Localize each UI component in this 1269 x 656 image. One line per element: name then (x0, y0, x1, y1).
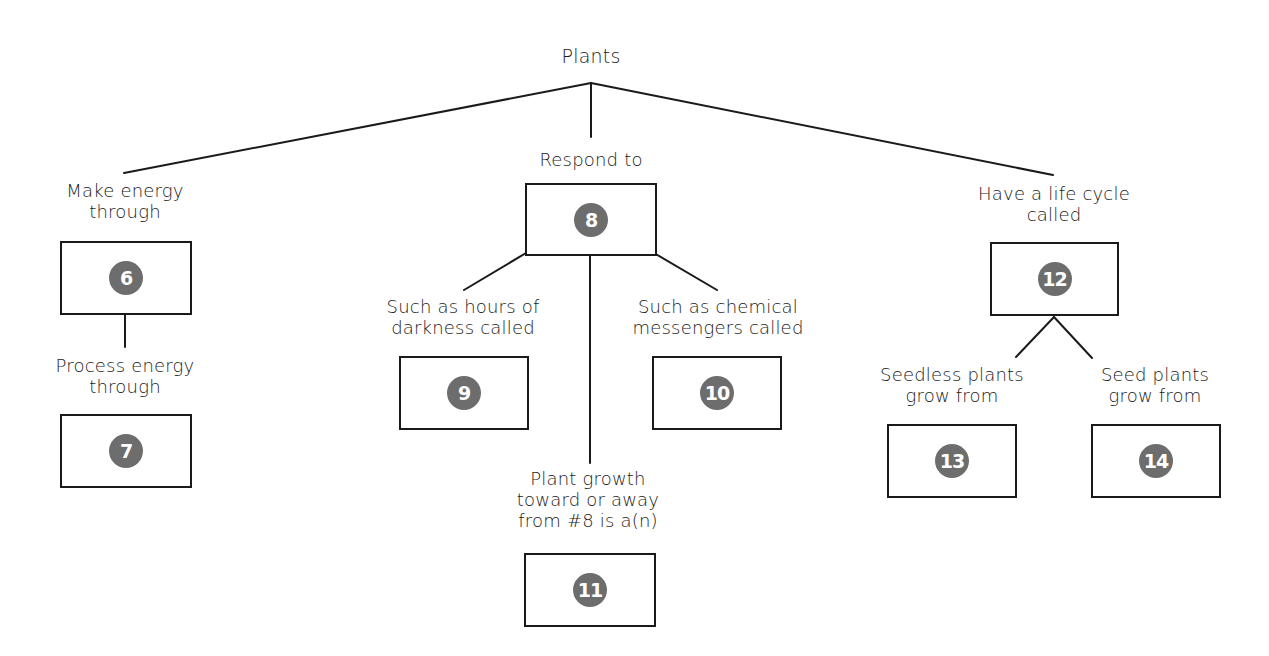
number-badge-9: 9 (447, 376, 481, 410)
answer-box-7[interactable]: 7 (60, 414, 192, 488)
number-badge-10: 10 (700, 376, 734, 410)
answer-box-14[interactable]: 14 (1091, 424, 1221, 498)
number-badge-6: 6 (109, 261, 143, 295)
answer-box-9[interactable]: 9 (399, 356, 529, 430)
connector-plants-left (124, 83, 591, 173)
answer-box-12[interactable]: 12 (990, 242, 1119, 316)
answer-box-6[interactable]: 6 (60, 241, 192, 315)
number-badge-8: 8 (574, 203, 608, 237)
label-chemical-messengers: Such as chemical messengers called (632, 296, 803, 338)
label-process-energy: Process energy through (56, 355, 195, 397)
answer-box-10[interactable]: 10 (652, 356, 782, 430)
connector-12-to-13 (1016, 317, 1054, 357)
answer-box-11[interactable]: 11 (524, 553, 656, 627)
label-seedless-plants: Seedless plants grow from (880, 364, 1024, 406)
label-respond-to: Respond to (539, 149, 642, 170)
label-life-cycle: Have a life cycle called (978, 183, 1130, 225)
connector-plants-right (591, 83, 1053, 175)
number-badge-14: 14 (1139, 444, 1173, 478)
number-badge-12: 12 (1038, 262, 1072, 296)
connector-8-to-9 (464, 253, 526, 290)
connector-12-to-14 (1054, 317, 1092, 358)
concept-map: Plants Make energy through 6 Process ene… (0, 0, 1269, 656)
answer-box-13[interactable]: 13 (887, 424, 1017, 498)
number-badge-11: 11 (573, 573, 607, 607)
label-hours-of-darkness: Such as hours of darkness called (387, 296, 540, 338)
label-plant-growth: Plant growth toward or away from #8 is a… (517, 468, 659, 531)
connector-8-to-10 (654, 253, 717, 290)
answer-box-8[interactable]: 8 (525, 183, 657, 256)
number-badge-13: 13 (935, 444, 969, 478)
label-make-energy: Make energy through (66, 180, 183, 222)
number-badge-7: 7 (109, 434, 143, 468)
label-seed-plants: Seed plants grow from (1101, 364, 1209, 406)
root-title: Plants (562, 46, 621, 67)
